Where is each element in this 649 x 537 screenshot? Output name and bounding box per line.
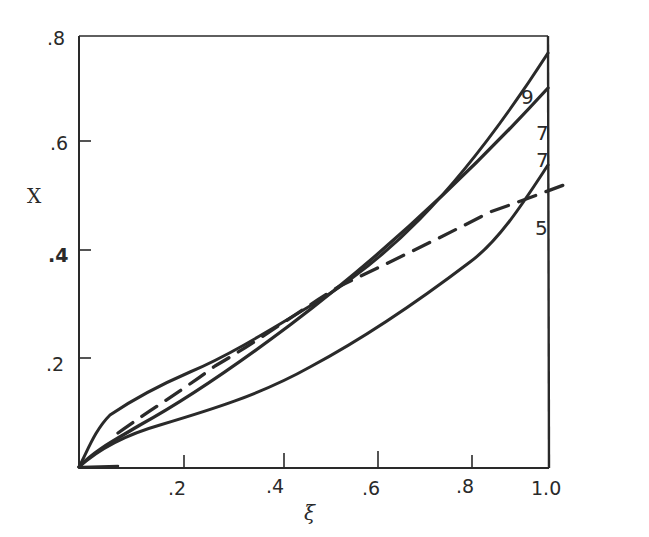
curve-9 [79, 53, 548, 467]
y-axis-label: X [27, 184, 42, 208]
origin-arrow-mark [82, 466, 118, 467]
y-tick-label-0.4: .4 [48, 244, 68, 266]
curve-label-7-dashed: 7 [536, 148, 549, 172]
x-tick-label-0.2: .2 [168, 477, 186, 499]
chart: .8 .6 .4 .2 X .2 .4 .6 .8 1.0 ξ 9 7 7 5 [0, 0, 649, 537]
plot-frame [79, 36, 549, 468]
y-tick-label-0.8: .8 [47, 27, 65, 49]
y-ticks [79, 141, 91, 358]
right-border [548, 36, 549, 468]
x-tick-label-0.6: .6 [362, 477, 380, 499]
curve-label-5: 5 [535, 216, 548, 240]
y-tick-label-0.2: .2 [46, 353, 64, 375]
x-tick-label-1.0: 1.0 [531, 477, 561, 499]
curve-5 [79, 165, 548, 467]
curve-label-7-solid: 7 [536, 121, 549, 145]
y-tick-label-0.6: .6 [50, 132, 68, 154]
x-tick-label-0.8: .8 [456, 475, 474, 497]
x-ticks [184, 451, 472, 468]
x-axis-label: ξ [304, 501, 316, 525]
curve-label-9: 9 [521, 85, 534, 109]
curve-7-dashed [118, 182, 572, 433]
x-tick-label-0.4: .4 [266, 475, 284, 497]
